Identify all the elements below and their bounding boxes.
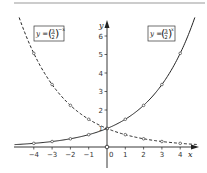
x-tick-label: 3 [160,151,164,159]
data-point [161,140,164,143]
data-point [142,104,145,107]
x-tick-label: 0 [109,151,113,159]
data-point [179,142,182,145]
y-axis-arrow [105,20,110,28]
x-tick-label: 1 [123,151,127,159]
data-point [51,140,54,143]
x-axis-label: x [188,150,193,159]
data-point [69,104,72,107]
y-tick-label: 4 [99,70,104,78]
data-point [33,142,36,145]
data-point [142,137,145,140]
x-tick-label: −1 [84,151,94,159]
data-point [69,137,72,140]
data-point [51,83,54,86]
x-tick-label: 2 [141,151,145,159]
data-point [161,83,164,86]
legend-label-decay: y = ( 3 2 ) −x [34,26,65,41]
y-tick-label: 1 [99,125,103,133]
x-tick-label: −4 [29,151,40,159]
y-tick-label: 3 [99,88,103,96]
x-axis-arrow [191,145,199,150]
data-point [124,118,127,121]
origin-marker [105,145,109,149]
label-exp: x [171,26,174,32]
data-point [124,133,127,136]
label-exp: −x [58,26,65,32]
exponential-chart: −4−3−2−101234123456 y = ( 3 2 ) −x y = (… [0,0,207,173]
label-prefix: y = [35,30,48,38]
y-tick-label: 6 [99,33,104,41]
y-tick-label: 5 [99,51,103,59]
data-point [87,133,90,136]
data-point [33,52,36,55]
data-point [87,118,90,121]
x-tick-label: 4 [178,151,183,159]
x-tick-label: −2 [65,151,75,159]
y-axis-label: y [98,21,104,30]
y-tick-label: 2 [99,107,103,115]
x-tick-label: −3 [47,151,57,159]
data-point [179,52,182,55]
legend-label-growth: y = ( 3 2 ) x [148,26,175,41]
